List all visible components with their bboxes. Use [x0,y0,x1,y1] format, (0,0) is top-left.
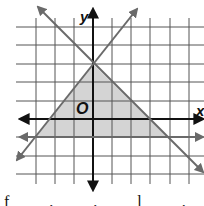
origin-label: O [76,100,89,117]
x-axis-label: x [195,102,204,119]
falling-line [38,7,203,172]
y-axis-label: y [79,8,89,25]
cropped-caption-text: f . . l . l [4,194,204,206]
inequality-graph: y x O [0,0,204,206]
